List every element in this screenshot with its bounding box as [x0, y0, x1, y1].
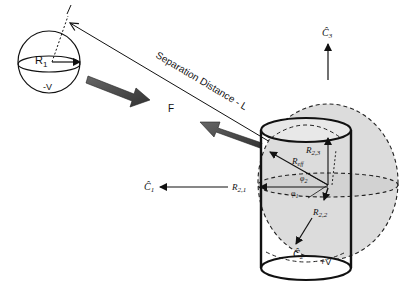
- left-sphere: R1 -V: [18, 16, 80, 93]
- force-arrow-left: [86, 76, 150, 107]
- right-charge-label: +V: [320, 257, 331, 267]
- force-arrow-right: [200, 122, 262, 148]
- electrostatic-diagram: R1 -V Separation Distance - L F Ĉ3 R2,3 …: [0, 0, 417, 303]
- separation-line: [70, 23, 297, 158]
- c3-label: Ĉ3: [322, 27, 333, 40]
- r21-label: R2,1: [231, 182, 246, 194]
- c1-label: Ĉ1: [144, 181, 154, 194]
- force-label: F: [168, 103, 174, 114]
- left-charge-label: -V: [43, 82, 52, 92]
